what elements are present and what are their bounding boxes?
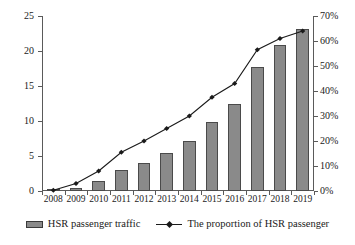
marker-2017 [255, 47, 260, 52]
bar-2008 [47, 189, 60, 191]
bar-2016 [228, 104, 241, 191]
y-axis-right-tick [314, 141, 318, 142]
y-axis-left-tick-label: 25 [2, 11, 34, 21]
line-diamond-marker-icon [156, 220, 182, 228]
legend-label-bar: HSR passenger traffic [48, 218, 141, 230]
plot-area [42, 16, 314, 191]
y-axis-right-tick-label: 40% [320, 86, 355, 96]
y-axis-right-tick-label: 50% [320, 61, 355, 71]
y-axis-right-tick [314, 41, 318, 42]
bar-swatch-icon [26, 221, 43, 228]
marker-2010 [96, 168, 101, 173]
y-axis-right-tick-label: 30% [320, 111, 355, 121]
legend-item-bar[interactable]: HSR passenger traffic [26, 218, 141, 230]
chart-container: 0510152025 0%10%20%30%40%50%60%70% 20082… [0, 0, 355, 245]
y-axis-right-tick [314, 91, 318, 92]
bar-2011 [115, 170, 128, 191]
marker-2018 [277, 36, 282, 41]
marker-2016 [232, 81, 237, 86]
bar-2010 [92, 181, 105, 192]
y-axis-right-tick-label: 20% [320, 136, 355, 146]
proportion-line [53, 31, 302, 190]
bar-2012 [138, 163, 151, 191]
y-axis-left-tick-label: 15 [2, 81, 34, 91]
marker-2015 [209, 95, 214, 100]
y-axis-right-tick-label: 0% [320, 186, 355, 196]
y-axis-left-tick-label: 20 [2, 46, 34, 56]
y-axis-right-tick-label: 10% [320, 161, 355, 171]
marker-2012 [141, 138, 146, 143]
y-axis-left-tick-label: 5 [2, 151, 34, 161]
y-axis-right-tick-label: 70% [320, 11, 355, 21]
bar-2013 [160, 153, 173, 191]
y-axis-right-tick [314, 166, 318, 167]
proportion-markers [51, 28, 306, 192]
bar-2018 [274, 45, 287, 191]
chart-legend: HSR passenger traffic The proportion of … [0, 214, 355, 234]
bar-2019 [296, 29, 309, 191]
y-axis-right-tick [314, 116, 318, 117]
marker-2013 [164, 126, 169, 131]
y-axis-left-tick-label: 0 [2, 186, 34, 196]
marker-2014 [187, 113, 192, 118]
legend-label-line: The proportion of HSR passenger [187, 218, 329, 230]
x-axis-tick-label: 2019 [287, 194, 319, 205]
y-axis-right-tick [314, 66, 318, 67]
bar-2009 [70, 188, 83, 192]
bar-2014 [183, 141, 196, 191]
bar-2017 [251, 67, 264, 191]
legend-item-line[interactable]: The proportion of HSR passenger [156, 218, 329, 230]
bar-2015 [206, 122, 219, 191]
marker-2009 [73, 181, 78, 186]
y-axis-left-tick-label: 10 [2, 116, 34, 126]
marker-2011 [119, 150, 124, 155]
y-axis-right-tick-label: 60% [320, 36, 355, 46]
y-axis-right-tick [314, 16, 318, 17]
